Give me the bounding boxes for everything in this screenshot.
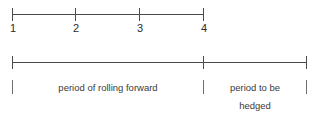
axis-label-1: 1 xyxy=(5,22,21,34)
axis-label-4: 4 xyxy=(196,22,212,34)
timeline-diagram: 1 2 3 4 period of rolling forward period… xyxy=(0,0,320,125)
top-axis-line xyxy=(12,14,204,15)
segment-label-to-be-hedged-line2: hedged xyxy=(211,99,299,113)
segment-label-rolling-forward: period of rolling forward xyxy=(20,81,196,95)
segment-marker-start xyxy=(12,80,13,94)
segment-marker-end xyxy=(306,80,307,94)
top-axis-tick-3 xyxy=(139,8,140,21)
bottom-axis-line xyxy=(12,62,307,63)
bottom-axis-tick-divider xyxy=(203,56,204,69)
top-axis-tick-1 xyxy=(12,8,13,21)
axis-label-3: 3 xyxy=(132,22,148,34)
bottom-axis-tick-end xyxy=(306,56,307,69)
axis-label-2: 2 xyxy=(68,22,84,34)
top-axis-tick-2 xyxy=(75,8,76,21)
top-axis-tick-4 xyxy=(203,8,204,21)
bottom-axis-tick-start xyxy=(12,56,13,69)
segment-label-to-be-hedged-line1: period to be xyxy=(211,81,299,95)
segment-marker-middle xyxy=(203,80,204,94)
